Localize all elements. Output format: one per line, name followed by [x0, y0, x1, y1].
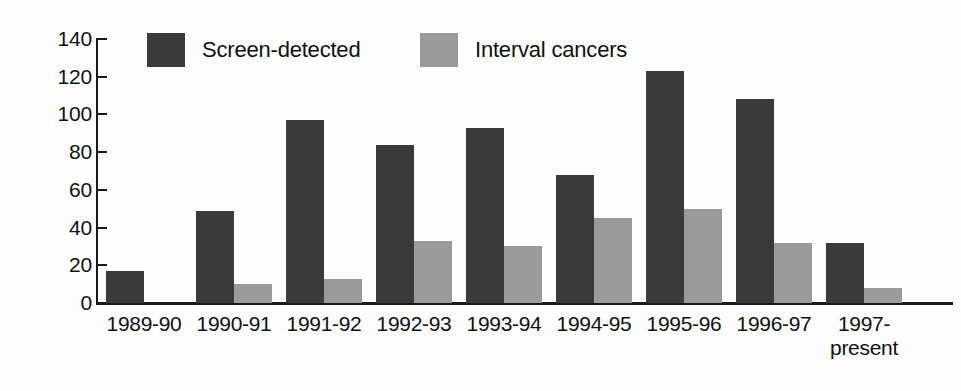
y-axis-tick-label: 20 — [34, 254, 92, 275]
bar-screen-detected — [556, 175, 594, 303]
y-axis-tick-label-wrap: 0 — [0, 292, 92, 313]
bar-screen-detected — [196, 211, 234, 303]
bar-screen-detected — [826, 243, 864, 303]
bar-group — [106, 39, 182, 303]
bar-screen-detected — [646, 71, 684, 303]
bar-interval-cancers — [864, 288, 902, 303]
bar-group — [646, 39, 722, 303]
legend-swatch-icon — [420, 33, 458, 67]
y-axis-tick-label: 0 — [34, 292, 92, 313]
bar-screen-detected — [106, 271, 144, 303]
bar-interval-cancers — [234, 284, 272, 303]
bar-screen-detected — [286, 120, 324, 303]
bar-screen-detected — [376, 145, 414, 303]
bar-group — [826, 39, 902, 303]
y-axis-tick-label-wrap: 80 — [0, 141, 92, 162]
x-axis-tick-label: 1997- present — [804, 312, 924, 360]
bar-group — [286, 39, 362, 303]
bar-group — [196, 39, 272, 303]
y-axis-tick-label: 100 — [34, 103, 92, 124]
y-axis-tick-label: 140 — [34, 28, 92, 49]
bar-interval-cancers — [774, 243, 812, 303]
y-axis-tick-label-wrap: 120 — [0, 66, 92, 87]
y-axis-tick-label: 80 — [34, 141, 92, 162]
plot-area — [98, 39, 953, 303]
y-axis-tick-label: 40 — [34, 217, 92, 238]
legend-item-interval-cancers: Interval cancers — [420, 33, 627, 67]
legend-swatch-icon — [147, 33, 185, 67]
bar-interval-cancers — [594, 218, 632, 303]
bar-interval-cancers — [414, 241, 452, 303]
y-axis-tick-label: 60 — [34, 179, 92, 200]
y-axis-tick-label-wrap: 60 — [0, 179, 92, 200]
y-axis-tick-label: 120 — [34, 66, 92, 87]
y-axis-tick-label-wrap: 100 — [0, 103, 92, 124]
legend-item-screen-detected: Screen-detected — [147, 33, 360, 67]
bar-screen-detected — [466, 128, 504, 303]
bar-chart: 020406080100120140 1989-901990-911991-92… — [0, 0, 961, 391]
bar-group — [376, 39, 452, 303]
bar-screen-detected — [736, 99, 774, 303]
y-axis-tick-label-wrap: 40 — [0, 217, 92, 238]
bar-group — [736, 39, 812, 303]
y-axis-tick-label-wrap: 20 — [0, 254, 92, 275]
bar-interval-cancers — [324, 279, 362, 304]
bar-group — [556, 39, 632, 303]
y-axis-tick-label-wrap: 140 — [0, 28, 92, 49]
legend-label: Screen-detected — [202, 39, 360, 61]
bar-group — [466, 39, 542, 303]
bar-interval-cancers — [684, 209, 722, 303]
legend-label: Interval cancers — [475, 39, 627, 61]
bar-interval-cancers — [504, 246, 542, 303]
